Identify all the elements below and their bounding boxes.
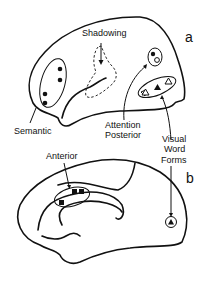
panel-label-b: b <box>186 170 194 186</box>
filled-circle-marker <box>151 52 155 56</box>
open-circle-marker <box>155 58 160 63</box>
filled-square-marker <box>72 189 77 194</box>
label-posterior: Posterior <box>105 130 141 140</box>
semantic-region <box>35 56 71 111</box>
open-triangle-marker <box>165 78 172 84</box>
corpus-callosum-outer <box>38 192 123 230</box>
label-anterior: Anterior <box>46 151 78 161</box>
filled-circle-marker <box>43 101 48 106</box>
label-semantic: Semantic <box>14 126 52 136</box>
label-attention: Attention <box>105 120 141 130</box>
filled-triangle-marker <box>168 219 174 225</box>
filled-circle-marker <box>58 67 63 72</box>
attention-posterior-region <box>148 48 162 66</box>
label-forms: Forms <box>161 155 187 165</box>
filled-circle-marker <box>43 92 48 97</box>
arrow-head-icon <box>160 95 164 99</box>
anterior-region <box>52 184 91 211</box>
corpus-callosum-inner <box>59 201 122 225</box>
panel-b: Anterior b <box>18 151 194 263</box>
brainstem-curve <box>42 233 80 239</box>
panel-a: Shadowing Semantic Attention Posterior a <box>14 17 193 140</box>
semantic-pointer <box>30 108 36 123</box>
panel-label-a: a <box>185 29 193 45</box>
brain-diagram: Shadowing Semantic Attention Posterior a… <box>0 0 207 283</box>
filled-square-marker <box>59 200 64 205</box>
label-visual: Visual <box>162 134 186 144</box>
label-shadowing: Shadowing <box>82 28 127 38</box>
label-word: Word <box>164 144 185 154</box>
arrow-head-icon <box>99 60 104 65</box>
filled-square-marker <box>79 189 84 194</box>
filled-triangle-marker <box>154 84 161 90</box>
sylvian-fissure <box>62 78 106 118</box>
filled-circle-marker <box>58 78 63 83</box>
